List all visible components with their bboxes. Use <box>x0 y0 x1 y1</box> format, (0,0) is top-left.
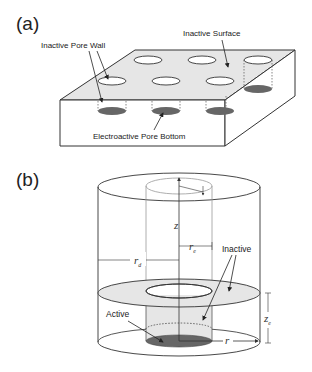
symbol-r-e: re <box>189 240 196 254</box>
label-inactive: Inactive <box>222 244 252 254</box>
label-inactive-pore-wall: Inactive Pore Wall <box>41 41 105 50</box>
figure: (a) <box>0 0 312 372</box>
panel-a-label: (a) <box>16 13 39 34</box>
panel-a: (a) <box>16 13 295 146</box>
label-inactive-surface: Inactive Surface <box>183 29 241 38</box>
panel-b-label: (b) <box>16 169 39 190</box>
pore-back-left <box>134 56 162 64</box>
pore-back-middle <box>188 56 216 64</box>
symbol-r: r <box>225 334 230 346</box>
label-electroactive-pore-bottom: Electroactive Pore Bottom <box>93 132 186 141</box>
top-radius-line <box>179 186 203 192</box>
panel-b: (b) z re <box>16 169 276 356</box>
label-active: Active <box>106 309 129 319</box>
symbol-z: z <box>173 219 179 231</box>
